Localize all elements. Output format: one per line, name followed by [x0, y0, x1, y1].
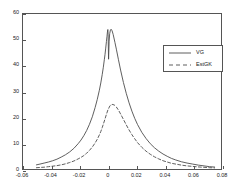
x-tick-mark [80, 166, 81, 169]
y-tick-mark [23, 14, 26, 15]
y-tick-label: 10 [0, 141, 19, 147]
x-tick-label: 0 [106, 173, 109, 179]
y-tick-label: 20 [0, 115, 19, 121]
y-tick-mark [23, 93, 26, 94]
legend-item-vg: VG [164, 47, 222, 59]
legend-sample-vg [168, 48, 192, 58]
plot-area [22, 13, 222, 170]
y-tick-label: 30 [0, 89, 19, 95]
y-tick-mark [23, 145, 26, 146]
curves-svg [23, 14, 221, 169]
x-tick-mark [52, 166, 53, 169]
y-tick-mark [23, 66, 26, 67]
x-tick-mark [194, 166, 195, 169]
x-tick-label: 0.06 [188, 173, 199, 179]
x-tick-mark [223, 166, 224, 169]
chart-figure: 0102030405060 -0.06-0.04-0.0200.020.040.… [0, 0, 237, 189]
legend-label-vg: VG [196, 50, 204, 56]
y-tick-label: 40 [0, 63, 19, 69]
x-tick-mark [109, 166, 110, 169]
legend-item-estgk: EstGK [164, 59, 222, 71]
series-estgk-line [36, 104, 214, 168]
legend-sample-estgk [168, 60, 192, 70]
chart-legend: VG EstGK [163, 45, 223, 72]
x-tick-label: 0.04 [159, 173, 170, 179]
x-tick-label: -0.06 [16, 173, 29, 179]
x-tick-label: -0.04 [44, 173, 57, 179]
x-tick-label: 0.08 [217, 173, 228, 179]
x-tick-label: -0.02 [73, 173, 86, 179]
y-tick-label: 60 [0, 10, 19, 16]
y-tick-mark [23, 40, 26, 41]
y-tick-mark [23, 119, 26, 120]
legend-label-estgk: EstGK [196, 62, 212, 68]
x-tick-label: 0.02 [131, 173, 142, 179]
y-tick-label: 50 [0, 36, 19, 42]
x-tick-mark [166, 166, 167, 169]
x-tick-mark [23, 166, 24, 169]
x-tick-mark [137, 166, 138, 169]
